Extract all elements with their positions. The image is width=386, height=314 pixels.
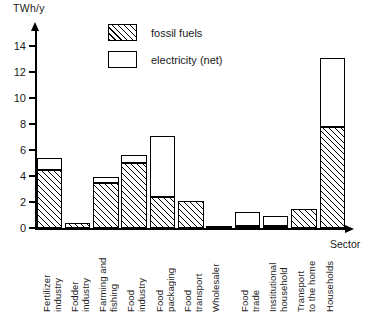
y-axis-tick-label: 10 [4,93,26,104]
bar-segment-fossil-fuels [37,170,63,229]
x-axis-category-label: Institutional household [268,232,289,312]
bar-segment-electricity [320,58,346,127]
y-axis-tick-label: 12 [4,67,26,78]
bar-segment-fossil-fuels [65,223,91,228]
y-axis-tick-mark [29,45,36,46]
bar-segment-electricity [37,158,63,170]
y-axis-tick-label: 4 [4,171,26,182]
x-axis-line [35,228,346,230]
x-axis-category-label: Fodder industry [70,232,91,312]
y-axis-tick-mark [29,227,36,228]
x-axis-category-label: Fertilizer industry [42,232,63,312]
y-axis-tick-label: 14 [4,41,26,52]
y-axis-tick-mark [29,201,36,202]
energy-by-sector-bar-chart: TWh/y 02468101214 Sector fossil fuels el… [0,0,386,314]
y-axis-tick-label: 8 [4,119,26,130]
x-axis-category-label: Food packaging [155,232,176,312]
x-axis-category-label: Farming and fishing [98,232,119,312]
bar-segment-electricity [235,212,261,226]
bar-segment-electricity [150,136,176,197]
x-axis-category-label: Wholesaler [211,232,222,312]
x-axis-category-label: Food trade [240,232,261,312]
bar-segment-fossil-fuels [291,209,317,229]
x-axis-category-labels: Fertilizer industryFodder industryFarmin… [36,232,346,314]
bar-segment-fossil-fuels [320,127,346,228]
y-axis-tick-label: 0 [4,223,26,234]
y-axis-tick-mark [29,71,36,72]
y-axis-tick-label: 6 [4,145,26,156]
bar-segment-fossil-fuels [93,183,119,229]
bar-segment-electricity [121,155,147,163]
bar-segment-fossil-fuels [150,197,176,228]
bar-segment-fossil-fuels [121,163,147,228]
bar-segment-fossil-fuels [178,201,204,228]
x-axis-category-label: Households [325,232,336,312]
x-axis-arrowhead-icon [345,225,354,233]
x-axis-category-label: Food industry [126,232,147,312]
y-axis-tick-label: 2 [4,197,26,208]
x-axis-category-label: Transport to the home [296,232,317,312]
bar-segment-electricity [263,216,289,226]
y-axis-tick-mark [29,175,36,176]
bar-segment-electricity [93,177,119,182]
y-axis-tick-mark [29,149,36,150]
bar-segment-fossil-fuels [263,226,289,228]
legend-item-fossil-fuels: fossil fuels [108,22,223,43]
bar-segment-fossil-fuels [235,226,261,228]
legend-label-fossil-fuels: fossil fuels [151,27,202,39]
y-axis-tick-mark [29,123,36,124]
plot-area [36,46,346,228]
y-axis-title: TWh/y [13,2,45,14]
hatched-square-icon [108,24,137,41]
y-axis-tick-mark [29,97,36,98]
x-axis-category-label: Food transport [183,232,204,312]
bar-segment-fossil-fuels [206,226,232,228]
